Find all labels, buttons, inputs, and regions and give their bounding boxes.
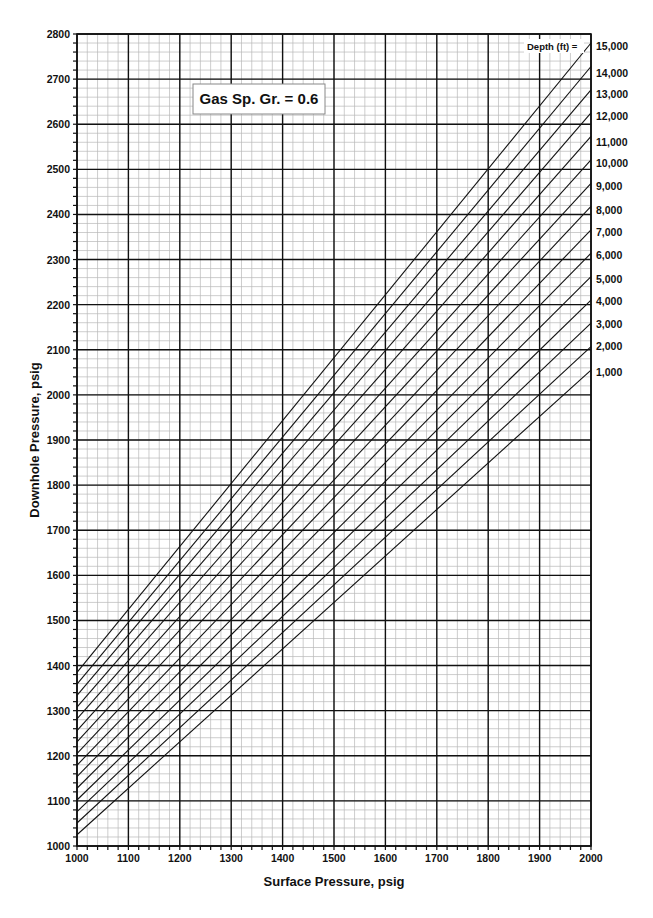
x-axis-title: Surface Pressure, psig [264, 874, 405, 889]
x-tick-label: 1800 [477, 852, 501, 864]
y-tick-label: 2400 [47, 208, 71, 220]
y-tick-label: 2200 [47, 299, 71, 311]
y-tick-label: 1000 [47, 840, 71, 852]
y-tick-label: 2800 [47, 28, 71, 40]
y-tick-label: 1400 [47, 660, 71, 672]
y-tick-label: 1600 [47, 569, 71, 581]
x-tick-label: 1200 [168, 852, 192, 864]
y-tick-label: 2500 [47, 163, 71, 175]
depth-label: 6,000 [596, 249, 622, 261]
depth-label: 13,000 [596, 88, 628, 100]
depth-label: 8,000 [596, 204, 622, 216]
depth-label: 12,000 [596, 110, 628, 122]
depth-label: 14,000 [596, 67, 628, 79]
x-tick-labels: 1000110012001300140015001600170018001900… [65, 852, 603, 864]
depth-label: 2,000 [596, 340, 622, 352]
y-tick-label: 1500 [47, 614, 71, 626]
depth-label: 10,000 [596, 157, 628, 169]
y-tick-label: 1700 [47, 524, 71, 536]
depth-label: 5,000 [596, 273, 622, 285]
x-tick-label: 1300 [220, 852, 244, 864]
y-tick-label: 2000 [47, 389, 71, 401]
y-tick-label: 2600 [47, 118, 71, 130]
x-tick-label: 1500 [322, 852, 346, 864]
y-tick-label: 2100 [47, 344, 71, 356]
depth-label: 9,000 [596, 180, 622, 192]
depth-label: 1,000 [596, 366, 622, 378]
y-tick-label: 2300 [47, 254, 71, 266]
annotation-box: Gas Sp. Gr. = 0.6 [193, 84, 325, 114]
annotation-text: Gas Sp. Gr. = 0.6 [200, 90, 319, 107]
x-tick-label: 1400 [271, 852, 295, 864]
depth-label: 7,000 [596, 226, 622, 238]
x-tick-label: 1100 [117, 852, 140, 864]
depth-label: 4,000 [596, 295, 622, 307]
depth-label: 3,000 [596, 318, 622, 330]
y-tick-labels: 1000110012001300140015001600170018001900… [47, 28, 71, 852]
x-tick-label: 1700 [425, 852, 449, 864]
y-tick-label: 1800 [47, 479, 71, 491]
x-tick-label: 1600 [374, 852, 398, 864]
depth-label: 11,000 [596, 136, 628, 148]
y-tick-label: 1200 [47, 750, 71, 762]
y-axis-title: Downhole Pressure, psig [27, 362, 42, 517]
y-tick-label: 1300 [47, 705, 71, 717]
depth-header: Depth (ft) = [524, 39, 584, 53]
y-tick-label: 2700 [47, 73, 71, 85]
y-tick-label: 1100 [47, 795, 70, 807]
x-tick-label: 1000 [65, 852, 89, 864]
depth-header-text: Depth (ft) = [527, 41, 578, 52]
chart: 1000110012001300140015001600170018001900… [0, 0, 653, 918]
depth-label: 15,000 [596, 40, 628, 52]
x-tick-label: 2000 [579, 852, 603, 864]
depth-labels: 1,0002,0003,0004,0005,0006,0007,0008,000… [596, 40, 628, 378]
y-tick-label: 1900 [47, 434, 71, 446]
x-tick-label: 1900 [528, 852, 552, 864]
